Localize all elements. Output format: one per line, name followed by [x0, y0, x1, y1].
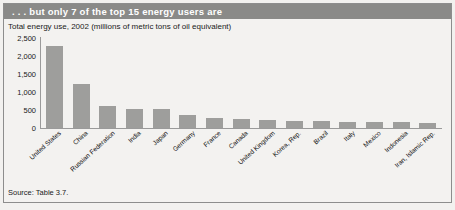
bar-cell	[121, 38, 148, 128]
bar[interactable]	[153, 109, 170, 128]
bar-cell	[148, 38, 175, 128]
x-tick-label: Mexico	[363, 130, 383, 149]
y-tick-label: 0	[0, 124, 36, 133]
bar[interactable]	[339, 122, 356, 128]
bar-cell	[201, 38, 228, 128]
y-tick-label: 500	[0, 106, 36, 115]
y-tick-label: 2,500	[0, 34, 36, 43]
bar[interactable]	[179, 115, 196, 128]
y-axis-tick-labels: 2,5002,0001,5001,0005000	[0, 0, 36, 210]
bar[interactable]	[259, 120, 276, 128]
bar[interactable]	[313, 121, 330, 128]
bar-cell	[174, 38, 201, 128]
bar-cell	[68, 38, 95, 128]
bar[interactable]	[286, 121, 303, 128]
source-note: Source: Table 3.7.	[8, 188, 68, 197]
bar-cell	[414, 38, 441, 128]
bar-cell	[334, 38, 361, 128]
y-tick-label: 2,000	[0, 52, 36, 61]
bar[interactable]	[206, 118, 223, 128]
x-tick-label: Indonesia	[384, 130, 410, 154]
x-tick-label: Brazil	[313, 130, 330, 146]
bar-cell	[388, 38, 415, 128]
bar-cell	[41, 38, 68, 128]
x-tick-label: India	[128, 130, 143, 144]
chart-subtitle: Total energy use, 2002 (millions of metr…	[8, 22, 231, 31]
bar[interactable]	[99, 106, 116, 128]
figure-container: . . . but only 7 of the top 15 energy us…	[0, 0, 455, 210]
bar[interactable]	[393, 122, 410, 128]
bar-series	[41, 38, 441, 128]
x-axis-line	[40, 128, 442, 129]
x-tick-label: France	[203, 130, 223, 149]
bar-cell	[308, 38, 335, 128]
bar-cell	[254, 38, 281, 128]
bar-cell	[94, 38, 121, 128]
y-tick-label: 1,000	[0, 88, 36, 97]
y-tick-label: 1,500	[0, 70, 36, 79]
bar-cell	[361, 38, 388, 128]
x-axis-category-labels: United StatesChinaRussian FederationIndi…	[41, 130, 441, 182]
figure-title: . . . but only 7 of the top 15 energy us…	[12, 6, 222, 17]
bar-cell	[228, 38, 255, 128]
x-tick-label: Germany	[171, 130, 196, 153]
bar[interactable]	[233, 119, 250, 128]
x-tick-label: Korea, Rep.	[272, 130, 303, 158]
x-tick-label: Japan	[152, 130, 170, 147]
x-tick-label: Italy	[343, 130, 356, 143]
bar-cell	[281, 38, 308, 128]
bar[interactable]	[73, 84, 90, 128]
x-tick-label: China	[72, 130, 89, 146]
bar[interactable]	[126, 109, 143, 128]
bar[interactable]	[366, 122, 383, 128]
figure-title-bar: . . . but only 7 of the top 15 energy us…	[4, 4, 451, 19]
x-tick-label: Canada	[228, 130, 250, 150]
bar[interactable]	[46, 46, 63, 128]
bar[interactable]	[419, 123, 436, 128]
